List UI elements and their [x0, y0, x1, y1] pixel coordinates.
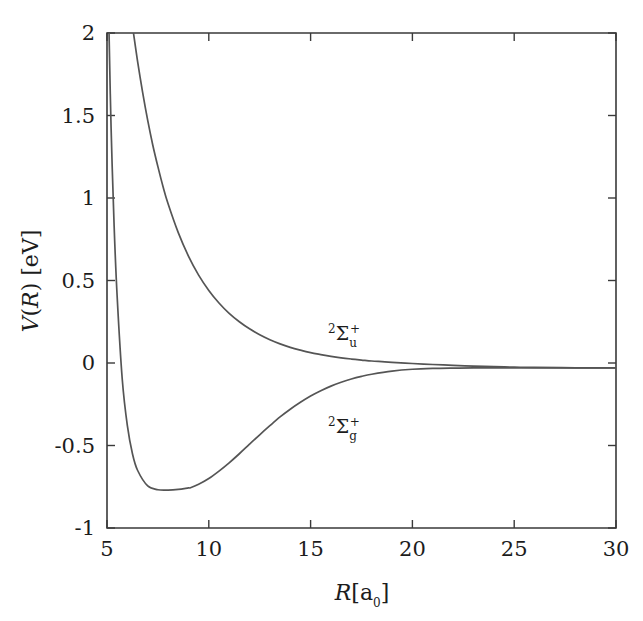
x-axis-tick-marks [107, 33, 616, 528]
figure-container: 51015202530 21.510.50-0.5-1 R[a0] V(R) [… [0, 0, 643, 621]
y-axis-title-paren-open: ( [18, 308, 43, 317]
y-tick-label: 0 [82, 351, 95, 375]
x-tick-label: 25 [501, 537, 528, 561]
y-axis-tick-labels: 21.510.50-0.5-1 [55, 21, 96, 540]
y-tick-label: 1.5 [62, 104, 95, 128]
y-axis-title-unit: [eV] [18, 230, 43, 283]
x-tick-label: 20 [399, 537, 426, 561]
y-axis-title-r: R [18, 291, 43, 309]
x-axis-title: R[a0] [334, 580, 390, 610]
annotation-g-sigma: Σ [336, 415, 349, 437]
y-tick-label: 2 [82, 21, 95, 45]
y-tick-label: -1 [75, 516, 95, 540]
x-tick-label: 30 [603, 537, 630, 561]
annotation-sigma-g-plus: 2Σg+ [328, 415, 360, 443]
annotation-u-sigma: Σ [336, 322, 349, 344]
annotation-u-superscript-2: 2 [328, 322, 336, 336]
y-axis-title-paren-close: ) [18, 283, 43, 292]
x-axis-title-bracket-open: [a [351, 580, 373, 605]
x-tick-label: 15 [297, 537, 324, 561]
y-tick-label: 0.5 [62, 269, 95, 293]
y-axis-tick-marks [107, 33, 616, 528]
x-axis-title-variable: R [334, 580, 352, 605]
y-tick-label: -0.5 [55, 434, 96, 458]
annotation-g-superscript-plus: + [350, 415, 360, 429]
x-tick-label: 5 [100, 537, 113, 561]
annotation-g-superscript-2: 2 [328, 415, 336, 429]
x-axis-title-bracket-close: ] [381, 580, 390, 605]
y-axis-title: V(R) [eV] [18, 230, 43, 333]
annotation-u-subscript: u [349, 336, 357, 350]
annotation-g-subscript: g [349, 429, 357, 443]
annotation-sigma-u-plus: 2Σu+ [328, 322, 360, 350]
x-axis-tick-labels: 51015202530 [100, 537, 629, 561]
annotation-u-superscript-plus: + [350, 322, 360, 336]
plot-frame [107, 33, 616, 528]
x-axis-title-subscript: 0 [373, 596, 381, 610]
potential-energy-plot: 51015202530 21.510.50-0.5-1 R[a0] V(R) [… [0, 0, 643, 621]
x-tick-label: 10 [195, 537, 222, 561]
y-tick-label: 1 [82, 186, 95, 210]
curve-sigma-g-plus [109, 33, 616, 490]
curve-sigma-u-plus [133, 33, 616, 368]
